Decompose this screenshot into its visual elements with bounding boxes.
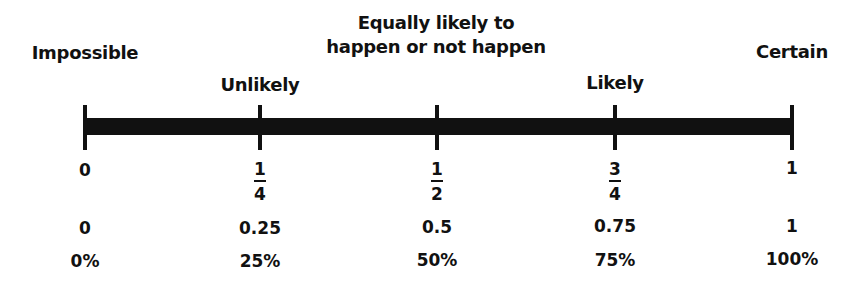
label-equally-likely: Equally likely to happen or not happen <box>326 11 545 59</box>
label-impossible: Impossible <box>32 42 139 64</box>
fraction-bar <box>431 180 443 182</box>
fraction-1: 1 <box>786 158 798 178</box>
decimal-0: 0 <box>79 218 91 238</box>
label-likely: Likely <box>586 72 643 94</box>
tick-half <box>435 105 439 150</box>
label-equally-likely-line2: happen or not happen <box>326 35 545 59</box>
fraction-0: 0 <box>79 160 91 180</box>
label-equally-likely-line1: Equally likely to <box>326 11 545 35</box>
decimal-05: 0.5 <box>422 217 452 237</box>
percent-25: 25% <box>240 251 281 271</box>
percent-75: 75% <box>595 250 636 270</box>
fraction-bar <box>609 180 621 182</box>
decimal-1: 1 <box>786 216 798 236</box>
fraction-three-quarters: 3 4 <box>609 160 621 203</box>
fraction-bar <box>254 180 266 182</box>
label-certain: Certain <box>756 41 828 63</box>
tick-0 <box>83 105 87 150</box>
fraction-one-half: 1 2 <box>431 160 443 203</box>
denominator: 4 <box>254 185 266 203</box>
decimal-025: 0.25 <box>239 218 281 238</box>
percent-100: 100% <box>766 249 819 269</box>
denominator: 2 <box>431 185 443 203</box>
percent-0: 0% <box>71 251 100 271</box>
tick-quarter <box>258 105 262 150</box>
tick-1 <box>790 105 794 150</box>
numerator: 3 <box>609 160 621 178</box>
fraction-one-quarter: 1 4 <box>254 160 266 203</box>
numerator: 1 <box>254 160 266 178</box>
label-unlikely: Unlikely <box>221 74 300 96</box>
numerator: 1 <box>431 160 443 178</box>
denominator: 4 <box>609 185 621 203</box>
decimal-075: 0.75 <box>594 216 636 236</box>
percent-50: 50% <box>417 250 458 270</box>
tick-three-quarters <box>613 105 617 150</box>
